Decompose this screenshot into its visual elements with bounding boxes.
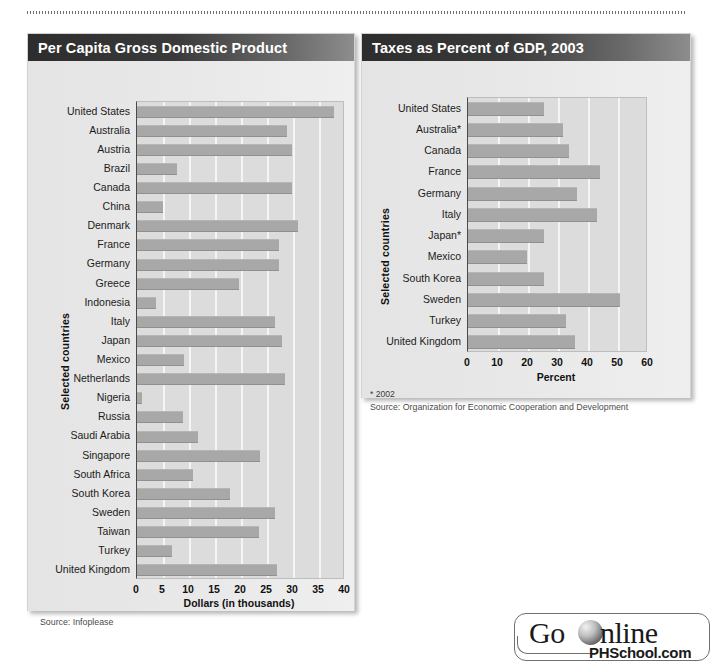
bar-row [137,488,344,500]
category-label: Brazil [48,158,136,177]
plot-area-gdp [136,101,344,579]
bar [137,545,172,557]
category-label: South Korea [370,267,467,288]
category-label: Mexico [370,246,467,267]
category-label: Indonesia [48,292,136,311]
bar [137,125,287,137]
bar [137,163,177,175]
bar [137,411,183,423]
x-tick-label: 10 [182,583,194,595]
bar [468,293,620,307]
bar-row [468,187,647,201]
bar-row [137,125,344,137]
category-label: United States [370,97,467,118]
bar-row [137,354,344,366]
bar [468,335,575,349]
x-tick-label: 60 [641,356,653,368]
bar [468,314,566,328]
plot-area-taxes [467,97,647,352]
top-dotted-rule [27,11,687,14]
bar-row [137,144,344,156]
category-label: Saudi Arabia [48,426,136,445]
source-note-taxes: Source: Organization for Economic Cooper… [370,402,628,412]
bar [137,431,198,443]
bar-row [468,208,647,222]
bar-row [137,545,344,557]
x-tick-label: 5 [159,583,165,595]
y-axis-category-labels-taxes: United StatesAustralia*CanadaFranceGerma… [370,97,467,352]
badge-go-label: Go [529,616,565,650]
bar-row [468,293,647,307]
bar-row [137,335,344,347]
category-label: United Kingdom [370,331,467,352]
x-tick-label: 20 [521,356,533,368]
category-label: Japan [48,330,136,349]
bar [137,526,259,538]
category-label: United Kingdom [48,560,136,579]
category-label: Canada [48,177,136,196]
bar-row [468,250,647,264]
x-tick-label: 20 [234,583,246,595]
category-label: Sweden [48,502,136,521]
bar-row [468,335,647,349]
chart-body-gdp: Selected countries United StatesAustrali… [28,61,354,611]
bar-row [137,259,344,271]
category-label: Nigeria [48,388,136,407]
bar-row [137,278,344,290]
bar-row [137,373,344,385]
bar [137,335,282,347]
x-tick-label: 25 [260,583,272,595]
category-label: Mexico [48,349,136,368]
category-label: United States [48,101,136,120]
category-label: France [48,235,136,254]
x-tick-label: 30 [286,583,298,595]
bar [468,165,600,179]
bar-row [137,411,344,423]
bar-row [468,314,647,328]
category-label: Russia [48,407,136,426]
bar-row [137,507,344,519]
bar-row [137,564,344,576]
bar [137,259,279,271]
x-tick-label: 35 [312,583,324,595]
bar [468,250,527,264]
bar-row [137,316,344,328]
x-tick-label: 40 [581,356,593,368]
bar [137,297,156,309]
bar-row [137,297,344,309]
bar [137,507,275,519]
chart-panel-taxes-percent-gdp: Taxes as Percent of GDP, 2003 Selected c… [361,33,691,398]
x-axis-title-gdp: Dollars (in thousands) [136,597,342,609]
x-tick-label: 15 [208,583,220,595]
category-label: Austria [48,139,136,158]
bar-row [468,144,647,158]
category-label: Italy [370,203,467,224]
bar [468,272,544,286]
bar [137,144,292,156]
bar [468,208,597,222]
bar-row [137,450,344,462]
bar [468,102,544,116]
bar [137,182,292,194]
chart-body-taxes: Selected countries United StatesAustrali… [362,61,690,398]
category-label: Germany [370,182,467,203]
category-label: Germany [48,254,136,273]
go-online-badge[interactable]: Go nline PHSchool.com [514,613,710,661]
bar [137,201,163,213]
x-tick-label: 50 [611,356,623,368]
source-note-gdp: Source: Infoplease [40,617,113,627]
category-label: South Africa [48,464,136,483]
bar [137,278,239,290]
x-tick-label: 0 [133,583,139,595]
bar [137,239,279,251]
x-tick-label: 0 [464,356,470,368]
chart-panel-gdp-per-capita: Per Capita Gross Domestic Product Select… [27,33,355,611]
category-label: Netherlands [48,369,136,388]
bar-row [137,220,344,232]
bar [137,354,184,366]
bar-row [137,106,344,118]
bar [137,450,260,462]
category-label: Taiwan [48,521,136,540]
category-label: Denmark [48,216,136,235]
bar [468,187,577,201]
